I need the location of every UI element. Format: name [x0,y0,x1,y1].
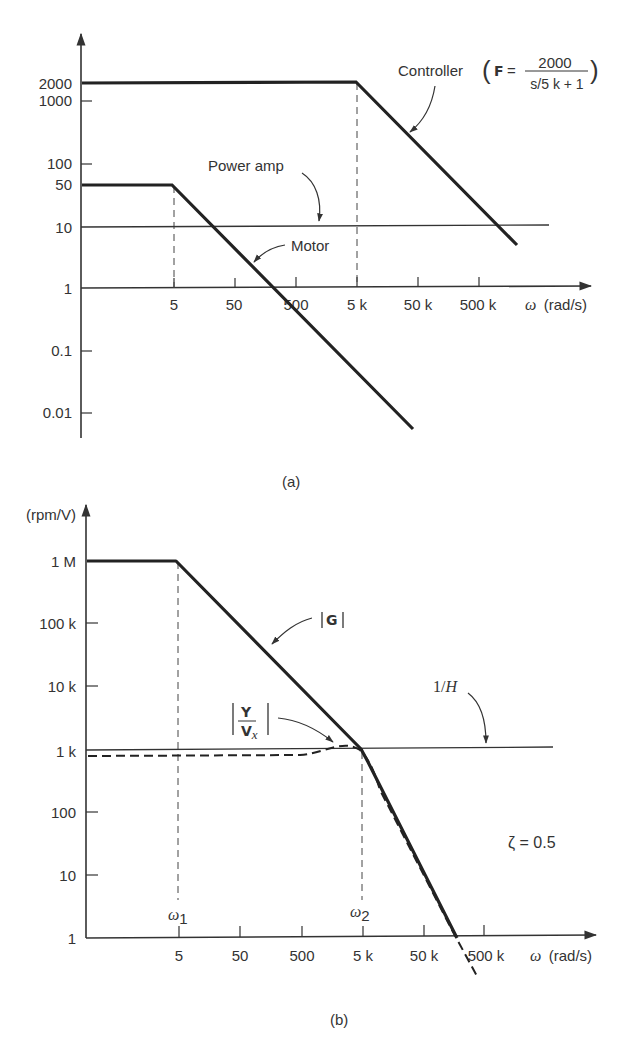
controller-label: Controller ( F = 2000 s/5 k + 1 ) [398,54,599,92]
svg-text:Y: Y [240,704,252,720]
y-ticks [86,623,98,875]
plot-a: 2000 1000 100 50 10 1 0.1 0.01 5 50 500 … [39,34,599,490]
inverse-h-label: 1/H [433,678,458,695]
svg-text:Controller: Controller [398,62,463,79]
plot-b: (rpm/V) 1 M 100 k 10 k 1 k 100 10 1 [26,505,596,1028]
x-tick-label: 50 k [404,296,433,313]
g-label: G [322,612,343,628]
power-amp-line [81,225,549,227]
svg-text:): ) [590,55,599,85]
x-axis-label: ω (rad/s) [530,947,592,964]
x-tick-label: 5 k [347,296,368,313]
zeta-label: ζ = 0.5 [508,834,556,852]
y-ticks [81,101,92,413]
controller-callout-arrow [410,86,435,132]
power-amp-callout-arrow [302,173,320,221]
x-tick-label: 5 k [353,947,374,964]
svg-text:G: G [326,612,338,628]
y-unit-label: (rpm/V) [26,506,76,523]
controller-line [82,82,517,245]
svg-text:(: ( [482,55,491,85]
x-tick-label: 500 k [468,947,505,964]
svg-text:F: F [494,63,504,79]
y-tick-label: 0.1 [51,342,72,359]
vx-text: Vx [241,723,258,742]
x-axis [81,286,591,288]
g-callout-arrow [272,618,312,644]
y-tick-label: 2000 [39,75,72,92]
motor-label: Motor [291,237,329,254]
x-tick-labels: 5 50 500 5 k 50 k 500 k ω (rad/s) [175,947,592,964]
omega1-label: ω1 [168,906,188,927]
x-tick-label: 50 k [410,947,439,964]
motor-callout-arrow [254,245,285,262]
y-tick-labels: 2000 1000 100 50 10 1 0.1 0.01 [39,75,72,421]
y-tick-label: 0.01 [43,404,72,421]
svg-text:=: = [507,62,516,79]
x-tick-label: 50 [232,947,249,964]
x-tick-label: 500 [289,947,314,964]
x-tick-label: 5 [170,296,178,313]
inverse-h-callout-arrow [468,693,486,743]
y-over-vx-label: Y Vx [233,703,268,742]
y-tick-label: 100 [47,155,72,172]
y-tick-label: 10 [55,219,72,236]
x-tick-label: 500 k [460,296,497,313]
y-tick-label: 1000 [39,92,72,109]
caption-b: (b) [330,1011,348,1028]
caption-a: (a) [282,473,300,490]
y-tick-label: 100 k [39,615,76,632]
y-over-vx-callout-arrow [278,718,333,742]
svg-text:s/5 k + 1: s/5 k + 1 [530,76,584,92]
y-tick-label: 1 k [56,743,77,760]
svg-text:2000: 2000 [538,54,571,71]
inverse-h-line [86,747,553,750]
y-tick-label: 1 M [51,553,76,570]
omega2-label: ω2 [350,903,370,924]
y-tick-label: 1 [68,930,76,947]
x-tick-label: 5 [175,947,183,964]
x-axis [86,935,596,938]
y-tick-label: 50 [55,176,72,193]
y-tick-label: 10 [59,867,76,884]
power-amp-label: Power amp [208,157,284,174]
x-axis-label: ω (rad/s) [525,296,587,313]
y-tick-labels: 1 M 100 k 10 k 1 k 100 10 1 [39,553,76,947]
x-tick-label: 50 [226,296,243,313]
y-tick-label: 100 [51,804,76,821]
x-tick-labels: 5 50 500 5 k 50 k 500 k ω (rad/s) [170,296,587,313]
y-tick-label: 10 k [48,678,77,695]
y-tick-label: 1 [64,280,72,297]
figure: 2000 1000 100 50 10 1 0.1 0.01 5 50 500 … [0,0,622,1045]
